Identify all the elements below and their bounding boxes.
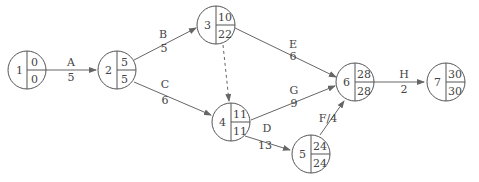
node-1: 1 0 0 xyxy=(8,51,46,89)
edge-label-activity: C xyxy=(161,78,169,91)
node-7: 7 30 30 xyxy=(427,63,465,101)
edge-dummy-3-4 xyxy=(223,45,229,101)
node-latest-time: 11 xyxy=(233,125,247,138)
node-id: 4 xyxy=(219,116,226,129)
edge-label-activity: H xyxy=(399,68,409,81)
node-2: 2 5 5 xyxy=(98,51,136,89)
node-id: 7 xyxy=(434,76,441,89)
edge-label-activity: D xyxy=(263,122,272,135)
edge-label-activity-duration: F/4 xyxy=(319,112,337,125)
node-id: 5 xyxy=(299,148,306,161)
edge-label-duration: 6 xyxy=(290,50,297,63)
edge-label-duration: 9 xyxy=(291,97,298,110)
edge-label-duration: 5 xyxy=(161,42,168,55)
node-earliest-time: 30 xyxy=(448,68,462,81)
node-latest-time: 30 xyxy=(448,85,462,98)
edge-label-activity: A xyxy=(66,56,76,69)
node-latest-time: 22 xyxy=(218,28,232,41)
edge-label-duration: 6 xyxy=(162,94,169,107)
node-id: 3 xyxy=(204,19,211,32)
node-earliest-time: 5 xyxy=(121,56,128,69)
edge-label-duration: 5 xyxy=(68,71,75,84)
edge-E xyxy=(235,28,336,77)
edge-C xyxy=(134,82,211,115)
node-earliest-time: 0 xyxy=(31,56,38,69)
node-earliest-time: 24 xyxy=(313,140,327,153)
node-4: 4 11 11 xyxy=(212,103,250,141)
node-latest-time: 5 xyxy=(121,73,128,86)
node-3: 3 10 22 xyxy=(197,6,235,44)
node-earliest-time: 10 xyxy=(218,11,232,24)
edge-label-activity: B xyxy=(159,28,167,41)
node-earliest-time: 11 xyxy=(233,108,247,121)
edge-label-activity: G xyxy=(290,84,299,97)
node-earliest-time: 28 xyxy=(357,68,371,81)
node-6: 6 28 28 xyxy=(336,63,374,101)
node-id: 2 xyxy=(105,64,112,77)
node-id: 6 xyxy=(343,76,350,89)
node-id: 1 xyxy=(16,64,23,77)
node-5: 5 24 24 xyxy=(292,135,330,173)
node-latest-time: 24 xyxy=(313,157,327,170)
edge-label-duration: 2 xyxy=(401,83,408,96)
network-diagram: A 5 B 5 C 6 E 6 G 9 D 13 F/4 H 2 1 0 0 2… xyxy=(0,0,479,182)
node-latest-time: 28 xyxy=(357,85,371,98)
edge-label-duration: 13 xyxy=(258,139,272,152)
node-latest-time: 0 xyxy=(31,73,38,86)
